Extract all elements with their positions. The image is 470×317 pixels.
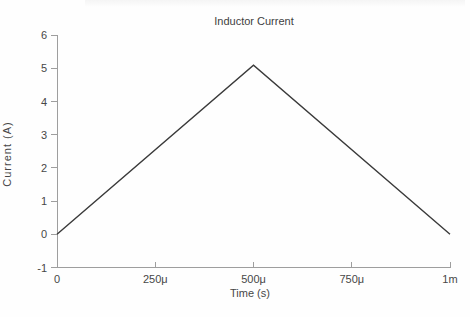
x-tick-label: 1m [442,273,457,285]
y-tick-label: 2 [41,162,47,174]
y-tick-label: -1 [37,262,47,274]
x-tick-label: 750μ [339,273,364,285]
plot-area: -101234560250μ500μ750μ1m [37,29,457,284]
inductor-current-figure: Inductor Current Time (s) Current (A) -1… [0,0,470,317]
series-line-inductor-current [57,65,450,234]
x-tick-label: 0 [54,273,60,285]
y-axis-label: Current (A) [1,121,13,186]
y-tick-label: 6 [41,29,47,41]
y-tick-label: 0 [41,228,47,240]
x-axis-label: Time (s) [230,287,270,299]
y-tick-label: 1 [41,195,47,207]
y-tick-label: 5 [41,62,47,74]
chart-title: Inductor Current [214,15,293,27]
y-tick-label: 4 [41,96,47,108]
x-tick-label: 250μ [143,273,168,285]
chart-canvas: Inductor Current Time (s) Current (A) -1… [0,0,470,317]
x-tick-label: 500μ [241,273,266,285]
y-tick-label: 3 [41,129,47,141]
